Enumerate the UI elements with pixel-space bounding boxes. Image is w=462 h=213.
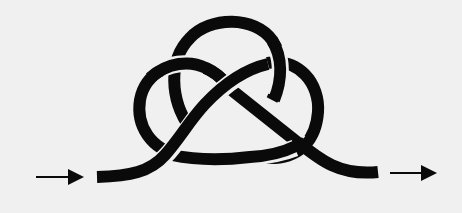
exit-tail <box>298 142 378 173</box>
knot-svg <box>0 0 462 213</box>
left-loop-top-over <box>150 63 228 86</box>
knot-diagram <box>0 0 462 213</box>
entry-arrow-icon <box>36 169 84 185</box>
diagonal-right-strand <box>224 84 302 146</box>
entry-arrow-head <box>68 169 84 185</box>
exit-arrow-head <box>421 165 437 181</box>
exit-arrow-icon <box>390 165 437 181</box>
bottom-curve-over <box>172 146 296 159</box>
